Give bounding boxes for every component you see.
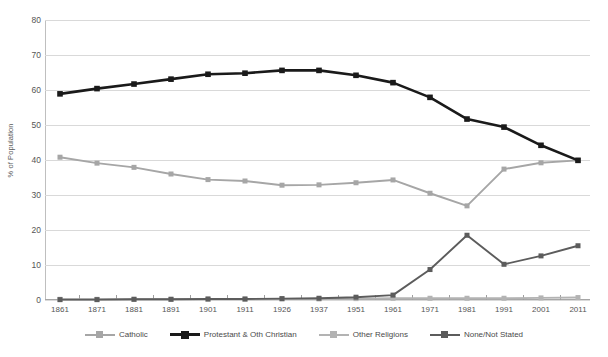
x-axis-tick-label: 2011 [569, 305, 586, 314]
legend-item-catholic[interactable]: Catholic [85, 330, 148, 339]
x-axis-tick-label: 1861 [51, 305, 69, 314]
series-marker [428, 267, 433, 272]
series-marker [428, 191, 433, 196]
series-marker [206, 296, 211, 301]
x-axis-tick-label: 1911 [236, 305, 253, 314]
series-marker [576, 295, 581, 300]
y-axis-title-label: % of Population [6, 123, 15, 177]
legend-item-label: None/Not Stated [464, 330, 523, 339]
series-marker [205, 71, 211, 77]
series-marker [465, 233, 470, 238]
series-marker [317, 296, 322, 301]
x-axis-tick-label: 1937 [310, 305, 328, 314]
series-marker [280, 183, 285, 188]
series-marker [317, 182, 322, 187]
series-marker [391, 177, 396, 182]
series-marker [539, 295, 544, 300]
series-marker [539, 160, 544, 165]
series-marker [57, 91, 63, 97]
series-marker [132, 297, 137, 302]
x-axis-tick-label: 1901 [199, 305, 217, 314]
series-marker [316, 68, 322, 74]
series-marker [206, 177, 211, 182]
legend-item-label: Protestant & Oth Christian [204, 330, 297, 339]
series-marker [243, 179, 248, 184]
y-axis-title: % of Population [2, 0, 18, 300]
x-axis-tick-label: 1991 [495, 305, 513, 314]
x-axis-tick-label: 1891 [162, 305, 180, 314]
series-marker [243, 296, 248, 301]
series-line [60, 70, 578, 160]
series-layer [45, 20, 590, 300]
y-axis-tick-label: 0 [17, 295, 41, 305]
y-axis-tick-label: 60 [17, 85, 41, 95]
x-axis-tick-label: 1981 [458, 305, 476, 314]
series-marker [58, 155, 63, 160]
legend-item-label: Other Religions [353, 330, 408, 339]
series-marker [538, 143, 544, 149]
y-axis-tick-label: 30 [17, 190, 41, 200]
y-axis-tick-label: 40 [17, 155, 41, 165]
series-marker [132, 165, 137, 170]
series-marker [575, 158, 581, 164]
x-axis-tick-label: 1881 [125, 305, 143, 314]
series-marker [168, 76, 174, 82]
x-axis-tick-label: 1971 [421, 305, 439, 314]
series-marker [390, 80, 396, 86]
chart-legend: CatholicProtestant & Oth ChristianOther … [0, 330, 608, 339]
chart-title [0, 0, 608, 4]
series-marker [465, 203, 470, 208]
series-marker [131, 81, 137, 87]
legend-item-label: Catholic [119, 330, 148, 339]
series-marker [58, 297, 63, 302]
x-axis-tick-label: 2001 [532, 305, 550, 314]
series-marker [501, 124, 507, 130]
legend-item-other-religions[interactable]: Other Religions [319, 330, 408, 339]
series-marker [502, 262, 507, 267]
series-marker [354, 180, 359, 185]
series-marker [502, 296, 507, 301]
y-axis-tick-label: 80 [17, 15, 41, 25]
series-marker [242, 70, 248, 76]
x-axis-tick-label: 1951 [347, 305, 365, 314]
series-marker [279, 68, 285, 74]
series-marker [169, 172, 174, 177]
series-marker [95, 161, 100, 166]
legend-item-none-not-stated[interactable]: None/Not Stated [430, 330, 523, 339]
legend-item-protestant-oth-christian[interactable]: Protestant & Oth Christian [170, 330, 297, 339]
series-marker [391, 293, 396, 298]
series-marker [428, 296, 433, 301]
y-axis-tick-label: 70 [17, 50, 41, 60]
series-marker [169, 297, 174, 302]
series-marker [95, 297, 100, 302]
x-axis-tick-label: 1926 [273, 305, 291, 314]
series-marker [576, 243, 581, 248]
series-marker [465, 296, 470, 301]
series-marker [464, 116, 470, 122]
series-marker [280, 296, 285, 301]
x-axis-tick-label: 1961 [384, 305, 402, 314]
y-axis-tick-label: 10 [17, 260, 41, 270]
series-line [60, 235, 578, 299]
series-marker [354, 295, 359, 300]
x-axis-tick-label: 1871 [88, 305, 106, 314]
plot-area: 01020304050607080 1861187118811891190119… [45, 20, 590, 300]
y-axis-tick-label: 20 [17, 225, 41, 235]
series-line [60, 157, 578, 206]
chart-container: % of Population 01020304050607080 186118… [0, 0, 608, 357]
series-marker [502, 167, 507, 172]
series-marker [353, 73, 359, 79]
series-marker [427, 95, 433, 101]
y-axis-tick-label: 50 [17, 120, 41, 130]
series-marker [539, 253, 544, 258]
series-marker [94, 86, 100, 92]
